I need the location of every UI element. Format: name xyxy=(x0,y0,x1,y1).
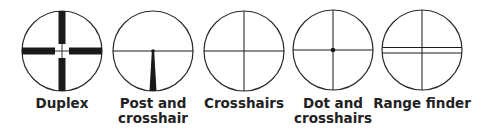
reticle-crosshairs: Crosshairs xyxy=(199,0,289,131)
post-crosshair-reticle-icon xyxy=(108,0,198,96)
reticle-range-finder: Range finder xyxy=(377,0,467,131)
reticle-label-range-finder: Range finder xyxy=(367,96,477,111)
label-line: Range finder xyxy=(367,96,477,111)
crosshairs-reticle-icon xyxy=(199,0,289,96)
range-finder-reticle-icon xyxy=(377,0,467,96)
label-line: crosshair xyxy=(98,111,208,126)
reticle-post-and-crosshair: Post and crosshair xyxy=(108,0,198,131)
reticle-dot-and-crosshairs: Dot and crosshairs xyxy=(288,0,378,131)
label-line: crosshairs xyxy=(278,111,388,126)
reticle-duplex: Duplex xyxy=(17,0,107,131)
dot-crosshairs-reticle-icon xyxy=(288,0,378,96)
duplex-reticle-icon xyxy=(17,0,107,96)
